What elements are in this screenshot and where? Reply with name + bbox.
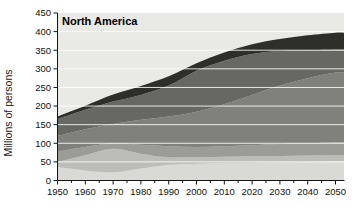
y-tick-label: 50 [40, 156, 51, 167]
y-tick-label: 450 [35, 7, 51, 18]
x-tick-label: 2000 [186, 186, 207, 197]
y-axis-label: Millions of persons [2, 70, 14, 157]
x-tick-label: 1990 [158, 186, 179, 197]
x-tick-label: 2020 [242, 186, 263, 197]
population-area-chart: 0501001502002503003504004501950196019701… [0, 0, 352, 219]
y-tick-label: 300 [35, 63, 51, 74]
x-tick-label: 2010 [214, 186, 235, 197]
y-tick-label: 0 [46, 175, 51, 186]
x-tick-label: 1950 [47, 186, 68, 197]
x-tick-label: 2030 [269, 186, 290, 197]
x-tick-label: 1980 [130, 186, 151, 197]
y-tick-label: 200 [35, 100, 51, 111]
y-tick-label: 350 [35, 45, 51, 56]
y-tick-label: 250 [35, 82, 51, 93]
x-tick-label: 1960 [75, 186, 96, 197]
x-tick-label: 2040 [297, 186, 318, 197]
y-tick-label: 400 [35, 26, 51, 37]
figure: 0501001502002503003504004501950196019701… [0, 0, 352, 219]
x-tick-label: 1970 [103, 186, 124, 197]
y-tick-label: 150 [35, 119, 51, 130]
y-tick-label: 100 [35, 138, 51, 149]
chart-title: North America [62, 15, 138, 27]
x-tick-label: 2050 [325, 186, 346, 197]
